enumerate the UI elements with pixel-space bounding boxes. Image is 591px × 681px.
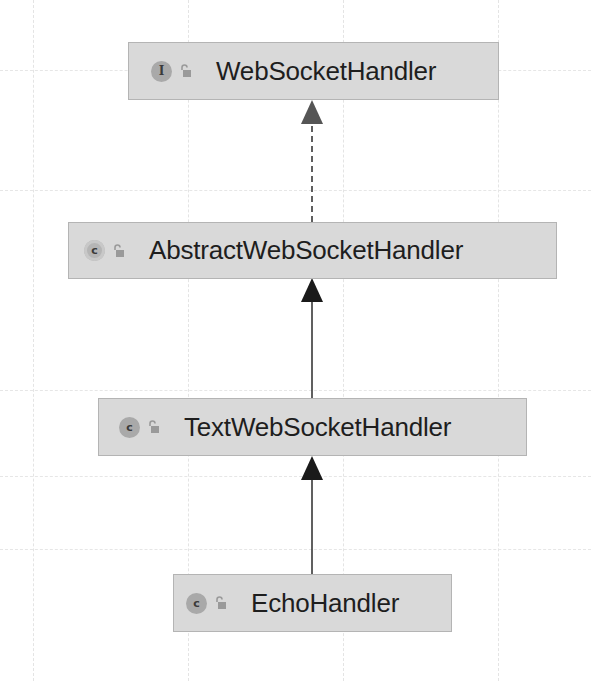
arrowhead-icon xyxy=(301,456,323,480)
unlocked-icon xyxy=(215,596,227,610)
node-websockethandler[interactable]: I WebSocketHandler xyxy=(128,42,499,100)
node-label: TextWebSocketHandler xyxy=(184,412,451,443)
node-textwebsockethandler[interactable]: c TextWebSocketHandler xyxy=(98,398,527,456)
abstract-class-icon: c xyxy=(84,240,105,261)
unlocked-icon xyxy=(148,420,160,434)
arrowhead-icon xyxy=(301,278,323,302)
edge-implements[interactable] xyxy=(301,100,323,222)
unlocked-icon xyxy=(113,244,125,258)
diagram-canvas[interactable]: I WebSocketHandler c AbstractWebSocketHa… xyxy=(0,0,591,681)
node-label: EchoHandler xyxy=(251,588,399,619)
edge-extends[interactable] xyxy=(301,278,323,398)
unlocked-icon xyxy=(180,64,192,78)
arrowhead-icon xyxy=(301,100,323,124)
node-echohandler[interactable]: c EchoHandler xyxy=(173,574,452,632)
class-icon: c xyxy=(119,417,140,438)
interface-icon: I xyxy=(151,61,172,82)
node-abstractwebsockethandler[interactable]: c AbstractWebSocketHandler xyxy=(68,222,557,279)
node-label: WebSocketHandler xyxy=(216,56,436,87)
node-label: AbstractWebSocketHandler xyxy=(149,235,463,266)
class-icon: c xyxy=(186,593,207,614)
edge-extends[interactable] xyxy=(301,456,323,574)
